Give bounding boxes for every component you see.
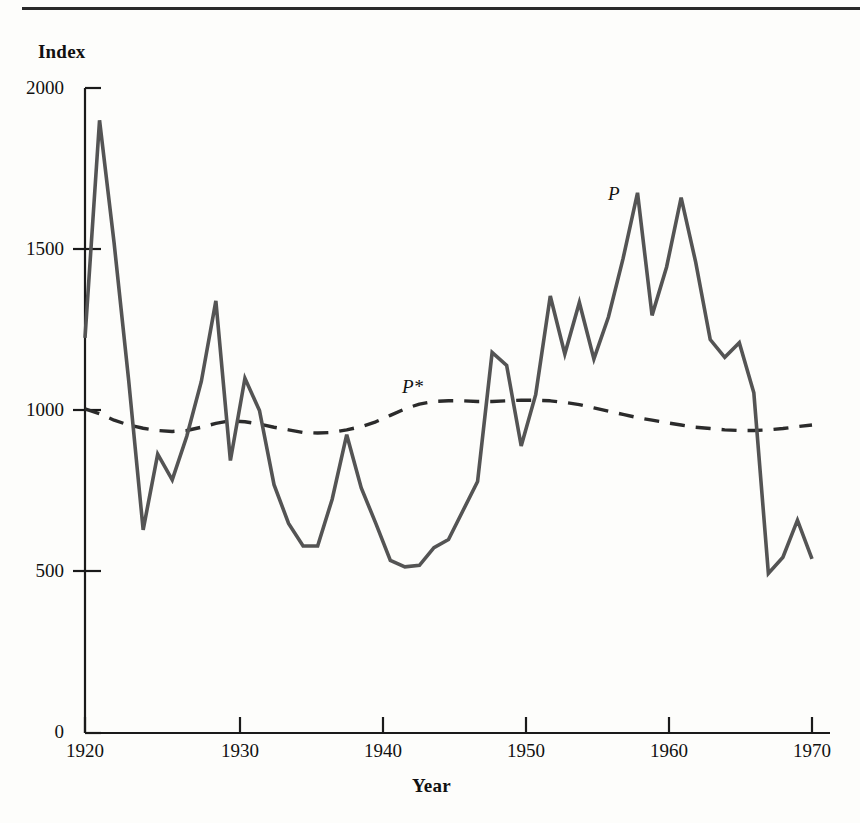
axes-group [85, 88, 830, 733]
x-axis-title: Year [412, 775, 451, 797]
series-line-p [85, 120, 812, 573]
x-tick-label-1940: 1940 [353, 740, 413, 762]
y-tick-label-1000: 1000 [6, 399, 64, 421]
x-tick-label-1920: 1920 [55, 740, 115, 762]
x-tick-label-1960: 1960 [639, 740, 699, 762]
y-axis-title: Index [38, 41, 85, 63]
chart-canvas: Index Year 2000 1500 1000 500 0 1920 193… [0, 0, 860, 823]
y-tick-label-2000: 2000 [6, 77, 64, 99]
figure-page: Index Year 2000 1500 1000 500 0 1920 193… [0, 0, 860, 823]
x-tick-marks [85, 717, 812, 733]
x-tick-label-1970: 1970 [782, 740, 842, 762]
x-tick-label-1930: 1930 [210, 740, 270, 762]
chart-svg [0, 0, 860, 823]
series-annotation-p-star: P* [402, 376, 423, 398]
y-tick-label-1500: 1500 [6, 238, 64, 260]
x-tick-label-1950: 1950 [496, 740, 556, 762]
y-tick-label-500: 500 [6, 560, 64, 582]
series-annotation-p: P [608, 183, 620, 205]
